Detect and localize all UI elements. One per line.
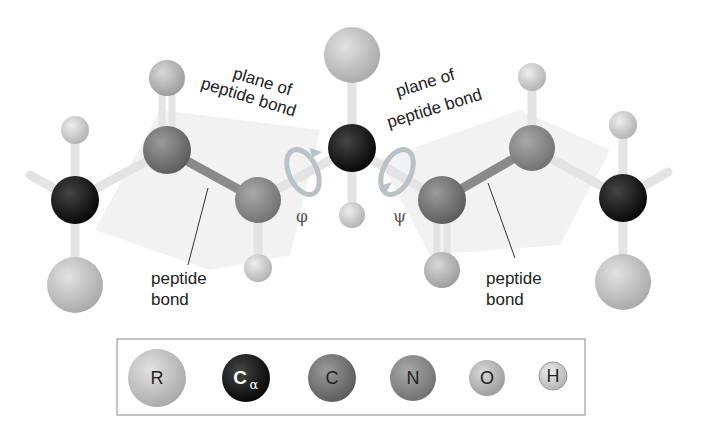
peptide-bond-label-left: peptide — [151, 269, 207, 288]
svg-text:H: H — [547, 366, 560, 386]
svg-text:O: O — [480, 368, 494, 388]
atom-Calpha — [599, 174, 647, 222]
svg-text:N: N — [407, 368, 420, 388]
legend-item-H: H — [539, 362, 567, 390]
atom-N — [235, 177, 281, 223]
phi-label: φ — [296, 206, 308, 226]
peptide-bond-label-left-2: bond — [151, 290, 189, 309]
atom-H — [61, 116, 89, 144]
atom-N — [509, 125, 555, 171]
atom-R — [47, 257, 103, 313]
atom-R — [324, 27, 380, 83]
legend-item-N: N — [390, 355, 436, 401]
legend-item-O: O — [469, 360, 505, 396]
atom-Calpha — [328, 124, 376, 172]
svg-text:R: R — [151, 368, 164, 388]
atom-C — [143, 126, 191, 174]
svg-text:α: α — [250, 377, 259, 392]
peptide-bond-label-right: peptide — [486, 269, 542, 288]
svg-text:C: C — [233, 367, 247, 388]
legend: R C α C N O H — [117, 339, 585, 415]
atom-O — [149, 60, 185, 96]
atom-Calpha — [51, 176, 99, 224]
legend-item-C: C — [308, 354, 356, 402]
atom-R — [595, 254, 651, 310]
peptide-bond-label-right-2: bond — [486, 290, 524, 309]
legend-item-R: R — [128, 349, 186, 407]
atom-O — [424, 252, 460, 288]
peptide-diagram: plane of peptide bond plane of peptide b… — [0, 0, 706, 435]
svg-text:C: C — [326, 368, 339, 388]
atom-C — [418, 176, 466, 224]
atom-H — [609, 111, 637, 139]
atom-H — [339, 202, 365, 228]
psi-label: ψ — [393, 206, 406, 226]
atom-H — [244, 254, 272, 282]
legend-item-Calpha: C α — [222, 354, 270, 402]
atom-H — [518, 63, 546, 91]
